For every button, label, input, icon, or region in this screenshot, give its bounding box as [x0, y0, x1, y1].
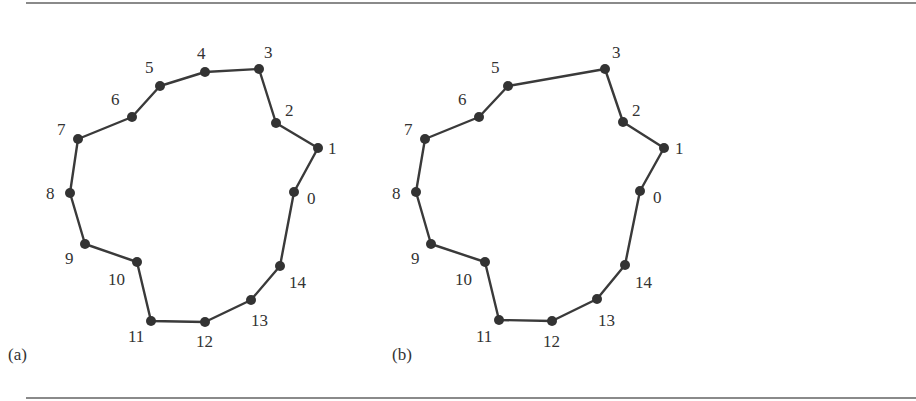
vertex-label: 0	[653, 188, 662, 207]
vertex-dot	[127, 112, 137, 122]
vertex-label: 10	[455, 270, 472, 289]
vertex-label: 13	[598, 311, 615, 330]
vertex-dot	[618, 117, 628, 127]
panel-a: 01234567891011121314(a)	[8, 43, 337, 364]
vertex-label: 10	[108, 270, 125, 289]
vertex-label: 6	[458, 90, 467, 109]
vertex-dot	[592, 294, 602, 304]
vertex-label: 11	[476, 327, 492, 346]
vertex-label: 7	[404, 120, 413, 139]
vertex-dot	[271, 118, 281, 128]
vertex-label: 3	[264, 43, 273, 62]
vertex-dot	[246, 295, 256, 305]
vertex-dot	[132, 257, 142, 267]
vertex-dot	[600, 64, 610, 74]
vertex-dot	[659, 143, 669, 153]
vertex-label: 9	[411, 249, 420, 268]
vertex-label: 1	[328, 139, 337, 158]
polygon-figure: 01234567891011121314(a) 0123567891011121…	[0, 0, 916, 401]
panel-caption: (b)	[392, 345, 412, 364]
vertex-label: 2	[632, 101, 641, 120]
vertex-dot	[146, 316, 156, 326]
vertex-label: 5	[145, 58, 154, 77]
panel-caption: (a)	[8, 345, 27, 364]
vertex-dot	[200, 67, 210, 77]
vertex-label: 14	[289, 273, 307, 292]
vertex-dot	[480, 257, 490, 267]
vertex-label: 6	[111, 90, 120, 109]
vertex-dot	[547, 316, 557, 326]
panel-b: 0123567891011121314(b)	[392, 43, 684, 364]
vertex-label: 13	[251, 311, 268, 330]
vertex-label: 7	[57, 120, 66, 139]
vertex-dot	[73, 134, 83, 144]
vertex-label: 9	[65, 249, 74, 268]
vertex-label: 1	[675, 139, 684, 158]
vertex-dot	[275, 261, 285, 271]
vertex-label: 8	[392, 184, 401, 203]
vertex-dot	[635, 186, 645, 196]
vertex-dot	[474, 112, 484, 122]
vertex-dot	[155, 81, 165, 91]
vertex-label: 3	[612, 43, 621, 62]
vertex-dot	[289, 187, 299, 197]
vertex-dot	[200, 317, 210, 327]
bottom-rule	[26, 397, 916, 399]
vertex-label: 12	[543, 332, 560, 351]
vertex-label: 0	[307, 189, 316, 208]
vertex-dot	[620, 260, 630, 270]
vertex-dot	[420, 134, 430, 144]
vertex-label: 4	[197, 44, 206, 63]
vertex-label: 12	[196, 332, 213, 351]
vertex-label: 5	[491, 58, 500, 77]
vertex-dot	[65, 188, 75, 198]
vertex-dot	[411, 187, 421, 197]
vertex-label: 11	[128, 327, 144, 346]
vertex-dot	[80, 239, 90, 249]
vertex-label: 2	[285, 101, 294, 120]
vertex-label: 14	[635, 273, 653, 292]
vertex-dot	[503, 81, 513, 91]
vertex-label: 8	[46, 184, 55, 203]
vertex-dot	[426, 239, 436, 249]
vertex-dot	[254, 64, 264, 74]
vertex-dot	[313, 143, 323, 153]
vertex-dot	[494, 315, 504, 325]
polygon-outline	[416, 69, 664, 321]
